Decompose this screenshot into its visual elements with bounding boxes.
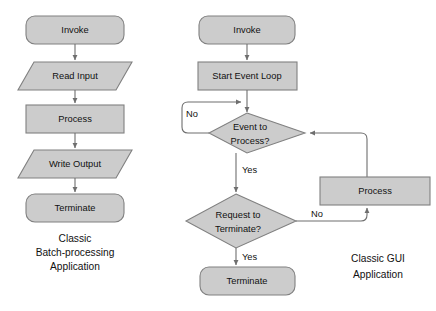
edge-label-terminate-no: No <box>311 209 323 219</box>
node-right-process: Process <box>320 177 430 205</box>
caption-line-1: Classic GUI <box>351 253 405 264</box>
edge-label-event-yes: Yes <box>242 165 258 175</box>
edge-label-terminate-yes: Yes <box>242 252 258 262</box>
node-label-left-read-input: Read Input <box>52 71 98 81</box>
flowchart-canvas: Invoke Read Input Process Write Output T <box>0 0 436 311</box>
node-left-terminate: Terminate <box>26 194 124 222</box>
node-right-invoke: Invoke <box>199 16 295 44</box>
node-right-event-decision: Event to Process? <box>209 113 305 153</box>
node-right-terminate: Terminate <box>200 267 295 295</box>
right-flow-caption: Classic GUI Application <box>351 253 405 280</box>
node-left-read-input: Read Input <box>18 62 132 90</box>
node-label-right-terminate: Terminate <box>227 276 268 286</box>
node-label-event-decision-line1: Event to <box>233 122 267 132</box>
node-right-terminate-decision: Request to Terminate? <box>186 194 296 248</box>
edge-label-event-no: No <box>186 109 198 119</box>
caption-line-3: Application <box>50 261 100 272</box>
left-flow-caption: Classic Batch-processing Application <box>36 233 115 272</box>
node-label-event-decision-line2: Process? <box>231 136 270 146</box>
node-label-right-invoke: Invoke <box>233 25 260 35</box>
edge-terminate-decision-no-to-process <box>296 208 367 221</box>
caption-line-2: Application <box>353 269 403 280</box>
node-label-left-process: Process <box>58 114 92 124</box>
node-label-left-invoke: Invoke <box>61 25 88 35</box>
node-right-start-event-loop: Start Event Loop <box>198 62 297 90</box>
flowchart-diagram: Invoke Read Input Process Write Output T <box>0 0 436 311</box>
left-flow-group: Invoke Read Input Process Write Output T <box>18 16 132 272</box>
node-left-invoke: Invoke <box>26 16 124 44</box>
diamond-shape <box>186 194 296 248</box>
node-label-terminate-decision-line2: Terminate? <box>215 224 261 234</box>
node-label-right-process: Process <box>358 186 392 196</box>
node-label-left-write-output: Write Output <box>49 159 101 169</box>
node-label-left-terminate: Terminate <box>55 203 96 213</box>
right-flow-group: Invoke Start Event Loop No Event to Proc… <box>182 16 430 295</box>
diamond-shape <box>209 113 305 153</box>
node-left-write-output: Write Output <box>18 150 132 178</box>
node-left-process: Process <box>26 105 124 133</box>
node-label-terminate-decision-line1: Request to <box>216 210 261 220</box>
node-label-start-event-loop: Start Event Loop <box>212 71 281 81</box>
caption-line-2: Batch-processing <box>36 247 115 258</box>
edge-process-to-event-decision <box>310 133 367 177</box>
caption-line-1: Classic <box>59 233 92 244</box>
